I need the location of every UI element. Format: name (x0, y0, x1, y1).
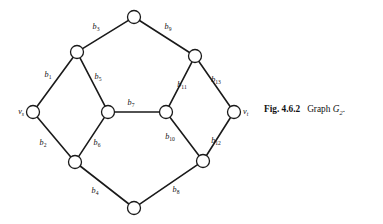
graph-vertex-lower-right (197, 155, 210, 168)
edge-label-b6: b6 (94, 138, 101, 148)
figure-caption-period: . (343, 104, 345, 114)
graph-edge-b6 (79, 117, 105, 156)
graph-vertex-center-right (160, 106, 173, 119)
edge-labels-layer: b1b2b3b4b5b6b7b8b9b10b11b12b13 (40, 22, 221, 196)
vertex-label-source: vs (18, 107, 24, 117)
graph-vertex-sink (228, 106, 241, 119)
graph-vertex-upper-left (71, 46, 84, 59)
edge-label-b2: b2 (40, 138, 47, 148)
graph-edge-b2 (37, 117, 71, 157)
vertex-label-sink: vt (243, 107, 249, 117)
graph-vertex-upper-right (189, 50, 202, 63)
graph-edge-b3 (83, 20, 129, 48)
figure-container: b1b2b3b4b5b6b7b8b9b10b11b12b13 vsvt Fig.… (0, 0, 383, 224)
graph-vertex-lower-left (69, 156, 82, 169)
edge-label-b3: b3 (93, 22, 100, 32)
edge-label-b7: b7 (128, 98, 135, 108)
edge-label-b12: b12 (211, 136, 221, 146)
graph-edge-b1 (37, 57, 73, 107)
edge-label-b8: b8 (173, 185, 180, 195)
graph-vertex-center-left (102, 106, 115, 119)
graph-vertex-top (128, 11, 141, 24)
figure-caption: Fig. 4.6.2Graph G2. (264, 103, 382, 119)
edge-label-b10: b10 (165, 132, 175, 142)
edge-label-b4: b4 (92, 186, 99, 196)
edges-layer (37, 20, 231, 204)
edge-label-b13: b13 (211, 75, 221, 85)
figure-caption-number: Fig. 4.6.2 (264, 104, 300, 114)
edge-label-b1: b1 (45, 70, 52, 80)
edge-label-b9: b9 (165, 22, 172, 32)
graph-vertex-source (27, 106, 40, 119)
figure-caption-label: Graph (307, 104, 330, 114)
edge-label-b5: b5 (95, 72, 102, 82)
graph-edge-b8 (139, 165, 197, 205)
graph-edge-b12 (206, 117, 230, 155)
graph-edge-b4 (80, 166, 129, 204)
graph-diagram: b1b2b3b4b5b6b7b8b9b10b11b12b13 vsvt (0, 0, 260, 224)
graph-vertex-bottom (128, 202, 141, 215)
